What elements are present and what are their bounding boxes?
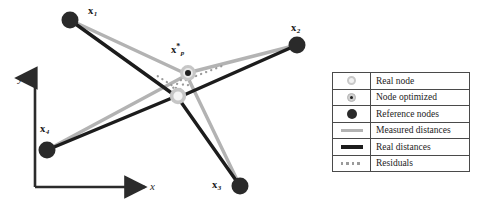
reference-node-x1[interactable]	[62, 12, 79, 29]
reference-node-x4[interactable]	[39, 142, 56, 159]
residual-line-icon	[341, 162, 363, 165]
residual-line-center	[180, 80, 186, 89]
real-node[interactable]	[172, 90, 185, 103]
legend-row-reference-nodes: Reference nodes	[333, 106, 469, 123]
axis-label-y: y	[18, 72, 23, 84]
measured-line-swatch-cell	[333, 123, 371, 139]
real-line-x4	[47, 98, 172, 150]
legend-row-node-optimized: Node optimized	[333, 90, 469, 107]
figure-canvas: x1 x2 x3 x4 x*p y x Real node Node optim…	[0, 0, 477, 214]
optimized-node[interactable]	[182, 67, 195, 80]
real-line-x1	[70, 20, 173, 94]
real-node-swatch-cell	[333, 73, 371, 89]
residual-line-swatch-cell	[333, 156, 371, 172]
reference-node-x2[interactable]	[289, 37, 306, 54]
reference-node-swatch-cell	[333, 106, 371, 122]
legend-label-node-optimized: Node optimized	[371, 92, 437, 102]
measured-line-icon	[341, 129, 363, 132]
label-node-x1: x1	[88, 6, 97, 18]
real-line-icon	[341, 145, 363, 149]
optimized-node-icon	[347, 93, 356, 102]
real-line-swatch-cell	[333, 139, 371, 155]
legend-label-real-distances: Real distances	[371, 142, 431, 152]
legend-row-residuals: Residuals	[333, 156, 469, 172]
label-node-x2: x2	[291, 23, 300, 35]
label-node-x4: x4	[40, 124, 49, 136]
label-node-optimized: x*p	[171, 43, 184, 57]
axis-label-x: x	[150, 180, 155, 192]
reference-node-x3[interactable]	[232, 178, 249, 195]
measured-line-x1	[70, 20, 182, 72]
legend-row-real-distances: Real distances	[333, 139, 469, 156]
optimized-node-swatch-cell	[333, 90, 371, 106]
real-line-x3	[181, 102, 240, 186]
measured-line-x3	[189, 80, 240, 186]
legend-label-reference-nodes: Reference nodes	[371, 109, 439, 119]
legend-row-real-node: Real node	[333, 73, 469, 90]
legend: Real node Node optimized Reference nodes…	[332, 72, 470, 172]
reference-nodes	[39, 12, 306, 195]
reference-node-icon	[347, 109, 357, 119]
legend-label-residuals: Residuals	[371, 158, 413, 168]
legend-label-measured-distances: Measured distances	[371, 125, 451, 135]
legend-row-measured-distances: Measured distances	[333, 123, 469, 140]
real-node-icon	[347, 76, 356, 85]
label-node-x3: x3	[212, 180, 221, 192]
legend-label-real-node: Real node	[371, 76, 414, 86]
